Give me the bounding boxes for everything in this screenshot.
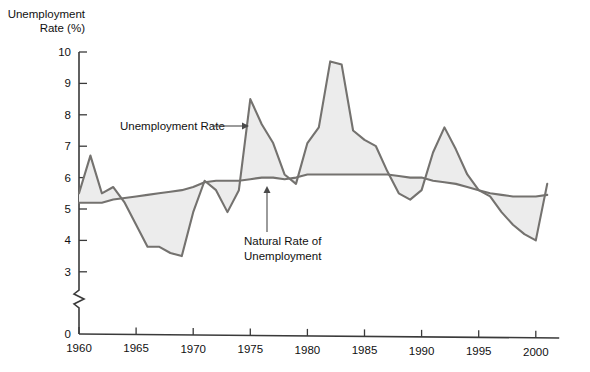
gap-area-fill: [79, 61, 547, 256]
x-tick-label: 1970: [180, 343, 206, 355]
natural-rate-annotation: Natural Rate ofUnemployment: [244, 186, 322, 262]
y-tick-label: 5: [65, 203, 71, 215]
natural-rate-annotation-text-line1: Natural Rate of: [244, 235, 322, 247]
unemployment-rate-annotation-text: Unemployment Rate: [120, 120, 225, 132]
y-tick-label: 10: [58, 46, 71, 58]
x-tick-label: 1980: [295, 344, 321, 356]
x-tick-label: 1985: [352, 344, 378, 356]
y-tick-label: 4: [65, 234, 72, 246]
x-axis-line: [79, 334, 559, 338]
chart-canvas: Unemployment Rate (%) 0345678910 1960196…: [0, 0, 590, 372]
y-axis-title-line2: Rate (%): [40, 22, 86, 34]
y-tick-label: 8: [65, 109, 71, 121]
natural-rate-annotation-arrowhead: [264, 186, 271, 193]
unemployment-rate-annotation: Unemployment Rate: [120, 120, 249, 132]
natural-rate-annotation-text-line2: Unemployment: [244, 250, 322, 262]
x-tick-label: 1965: [123, 342, 149, 354]
x-tick-label: 1975: [238, 343, 264, 355]
x-tick-label: 1990: [409, 345, 435, 357]
y-tick-label: 9: [65, 77, 71, 89]
x-tick-label: 1960: [66, 342, 92, 354]
y-tick-label: 6: [65, 172, 71, 184]
x-tick-label: 2000: [523, 346, 549, 358]
x-axis-ticks: 196019651970197519801985199019952000: [66, 327, 548, 358]
y-tick-label: 3: [65, 266, 71, 278]
y-axis-title-line1: Unemployment: [8, 8, 86, 20]
y-tick-label: 7: [65, 140, 71, 152]
unemployment-chart: Unemployment Rate (%) 0345678910 1960196…: [0, 0, 590, 372]
y-tick-label: 0: [65, 328, 71, 340]
x-tick-label: 1995: [466, 345, 492, 357]
